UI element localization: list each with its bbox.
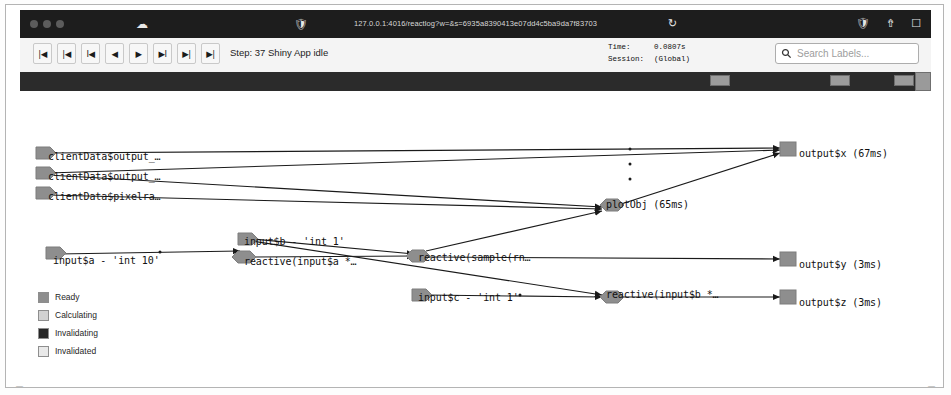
legend-item-ready: Ready [38,289,98,305]
timeline-scrollbar[interactable] [20,72,931,91]
node-label-input-b[interactable]: input$b - 'int 1' [244,236,345,247]
node-label-clientdata-pixelratio[interactable]: clientData$pixelra… [48,191,161,202]
node-label-reactive-input-a[interactable]: reactive(input$a *… [244,256,357,267]
search-input[interactable] [795,47,913,60]
next-frame-button[interactable]: ▶| [177,43,196,64]
state-legend: Ready Calculating Invalidating Invalidat… [38,289,98,361]
legend-label-ready: Ready [55,292,80,302]
session-row: Session: (Global) [608,53,690,65]
jump-to-start-button[interactable]: |◀ [33,43,52,64]
share-icon[interactable]: ⇮ [886,18,895,29]
jump-to-end-button[interactable]: ▶| [201,43,220,64]
step-status-label: Step: 37 Shiny App idle [230,47,328,58]
node-label-output-z[interactable]: output$z (3ms) [799,297,882,308]
corner-mark-left: — [16,382,23,389]
legend-label-invalidated: Invalidated [55,346,96,356]
step-back-button[interactable]: I◀ [81,43,100,64]
browser-right-icons: 🛡 ⇮ ☐ [856,18,921,29]
node-label-input-c[interactable]: input$c - 'int 1' [418,292,519,303]
play-backward-button[interactable]: ◀ [105,43,124,64]
legend-item-calculating: Calculating [38,307,98,323]
timeline-tick[interactable] [894,75,914,86]
node-label-output-x[interactable]: output$x (67ms) [799,148,888,159]
reactlog-toolbar: |◀ |◀ I◀ ◀ ▶ ▶I ▶| ▶| Step: 37 Shiny App… [20,38,931,72]
extension-icon[interactable]: 🛡 [856,18,870,29]
legend-label-calculating: Calculating [55,310,97,320]
legend-label-invalidating: Invalidating [55,328,98,338]
legend-swatch-invalidated [38,346,49,357]
legend-swatch-calculating [38,310,49,321]
session-key: Session: [608,53,654,65]
time-row: Time: 0.0807s [608,41,690,53]
time-value: 0.0807s [654,41,686,53]
url-bar[interactable]: 127.0.0.1:4016/reactlog?w=&s=6935a839041… [20,10,931,38]
timeline-tick[interactable] [710,75,730,86]
playback-controls: |◀ |◀ I◀ ◀ ▶ ▶I ▶| ▶| [33,43,220,64]
screenshot-root: ☁ 🛡 127.0.0.1:4016/reactlog?w=&s=6935a83… [0,0,951,395]
legend-swatch-ready [38,292,49,303]
node-label-reactive-input-b[interactable]: reactive(input$b *… [606,289,719,300]
reload-icon[interactable]: ↻ [668,18,677,29]
search-box[interactable] [775,43,919,64]
node-label-output-y[interactable]: output$y (3ms) [799,259,882,270]
legend-item-invalidated: Invalidated [38,343,98,359]
legend-swatch-invalidating [38,328,49,339]
timeline-tick[interactable] [830,75,850,86]
node-label-reactive-sample[interactable]: reactive(sample(rn… [418,252,531,263]
corner-mark-right: — [928,382,935,389]
node-label-input-a[interactable]: input$a - 'int 10' [53,255,160,266]
session-value: (Global) [654,53,690,65]
play-forward-button[interactable]: ▶ [129,43,148,64]
search-icon [781,48,792,59]
node-label-clientdata-output-2[interactable]: clientData$output_… [48,171,161,182]
node-label-plotobj[interactable]: plotObj (65ms) [606,199,689,210]
timeline-scroll-thumb[interactable] [915,72,931,91]
browser-title-bar: ☁ 🛡 127.0.0.1:4016/reactlog?w=&s=6935a83… [20,10,931,38]
previous-frame-button[interactable]: |◀ [57,43,76,64]
status-info: Time: 0.0807s Session: (Global) [608,41,690,65]
legend-item-invalidating: Invalidating [38,325,98,341]
node-label-clientdata-output-1[interactable]: clientData$output_… [48,151,161,162]
reactive-graph-canvas[interactable]: clientData$output_… clientData$output_… … [20,91,931,364]
tabs-icon[interactable]: ☐ [911,18,921,29]
time-key: Time: [608,41,654,53]
graph-edges [20,91,931,364]
step-forward-button[interactable]: ▶I [153,43,172,64]
